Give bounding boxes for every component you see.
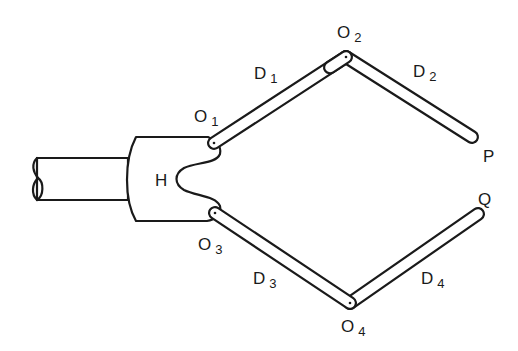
arm-shaft bbox=[33, 158, 128, 200]
joint-o4-pivot-icon bbox=[349, 302, 352, 305]
label-tip-q: Q bbox=[478, 190, 491, 209]
label-o2: O2 bbox=[337, 23, 361, 45]
label-o4: O4 bbox=[341, 317, 365, 339]
label-d1: D1 bbox=[254, 64, 278, 86]
label-d3: D3 bbox=[253, 269, 277, 291]
label-o3: O3 bbox=[198, 235, 222, 257]
joint-o1-pivot-icon bbox=[213, 142, 216, 145]
palm-body bbox=[127, 137, 220, 221]
label-o1: O1 bbox=[194, 107, 218, 129]
link-d4 bbox=[350, 214, 478, 303]
link-d3 bbox=[215, 213, 350, 303]
palm-label: H bbox=[155, 171, 167, 190]
joint-o2-pivot-icon bbox=[345, 56, 348, 59]
link-d2 bbox=[330, 57, 472, 137]
label-d2: D2 bbox=[413, 62, 437, 84]
diagram-canvas: H O1 O2 O3 O4 D1 D2 D3 D4 P Q bbox=[0, 0, 518, 351]
joint-o3-pivot-icon bbox=[214, 212, 217, 215]
label-tip-p: P bbox=[483, 147, 494, 166]
label-d4: D4 bbox=[421, 269, 445, 291]
gripper-diagram: H O1 O2 O3 O4 D1 D2 D3 D4 P Q bbox=[0, 0, 518, 351]
